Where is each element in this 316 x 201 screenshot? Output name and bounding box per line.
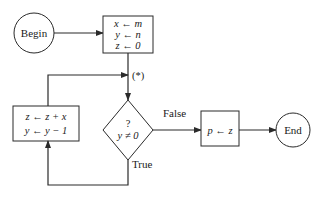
edge-loop-back <box>48 75 128 106</box>
flowchart-canvas: Begin x ← m y ← n z ← 0 (*) ? y ≠ 0 z ← … <box>0 0 316 201</box>
edge-true-label: True <box>132 158 152 170</box>
test-line-1: ? <box>126 118 131 129</box>
end-label: End <box>284 124 302 136</box>
init-line-3: z ← 0 <box>114 40 141 51</box>
loop-body-node: z ← z + x y ← y − 1 <box>13 106 79 141</box>
assign-label: p ← z <box>206 125 232 136</box>
init-node: x ← m y ← n z ← 0 <box>103 16 153 53</box>
init-line-1: x ← m <box>113 18 142 29</box>
loop-body-line-2: y ← y − 1 <box>24 125 68 136</box>
edge-test-true <box>48 141 128 185</box>
edge-init-to-test-label: (*) <box>132 70 145 82</box>
begin-node: Begin <box>14 13 54 53</box>
end-node: End <box>276 113 310 147</box>
test-line-2: y ≠ 0 <box>117 130 140 141</box>
edge-false-label: False <box>163 107 186 119</box>
loop-body-line-1: z ← z + x <box>25 111 67 122</box>
init-line-2: y ← n <box>114 29 141 40</box>
begin-label: Begin <box>21 27 48 39</box>
test-node: ? y ≠ 0 <box>103 100 153 160</box>
assign-node: p ← z <box>201 111 239 146</box>
